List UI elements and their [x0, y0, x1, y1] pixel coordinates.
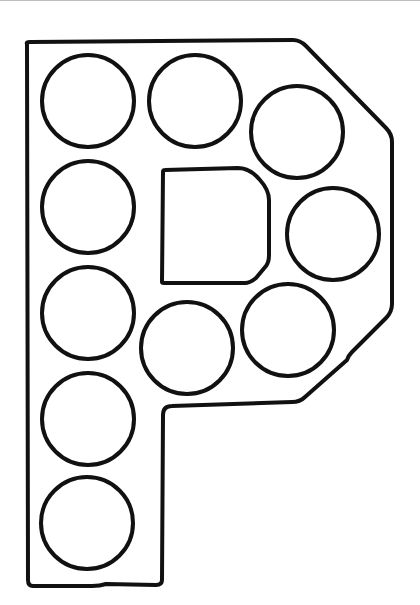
- dot-circle-7[interactable]: [141, 302, 233, 394]
- dot-circle-9[interactable]: [42, 373, 134, 465]
- dot-circle-8[interactable]: [242, 284, 334, 376]
- dot-circle-1[interactable]: [42, 55, 134, 147]
- dot-circle-3[interactable]: [251, 86, 343, 178]
- letter-p-counter-outline: [162, 168, 269, 283]
- dot-circle-5[interactable]: [287, 188, 379, 280]
- dot-circle-10[interactable]: [41, 477, 133, 569]
- dot-circles-group: [41, 55, 379, 569]
- letter-p-outline: [27, 40, 392, 586]
- dot-circle-2[interactable]: [149, 55, 241, 147]
- dot-circle-6[interactable]: [42, 267, 134, 359]
- dot-circle-4[interactable]: [42, 161, 134, 253]
- letter-p-worksheet: [0, 0, 420, 605]
